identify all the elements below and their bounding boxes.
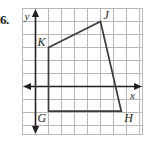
coordinate-plane-svg: KJHG x y (22, 8, 143, 135)
vertex-label-H: H (123, 111, 134, 125)
vertex-label-K: K (37, 35, 47, 49)
vertex-label-J: J (104, 8, 110, 22)
x-axis-label: x (129, 89, 135, 101)
figure-page: 6. KJHG x y (0, 0, 150, 143)
coordinate-grid-figure: KJHG x y (22, 8, 143, 135)
y-axis-label: y (24, 10, 30, 22)
vertex-label-G: G (38, 111, 47, 125)
problem-number: 6. (0, 12, 9, 28)
